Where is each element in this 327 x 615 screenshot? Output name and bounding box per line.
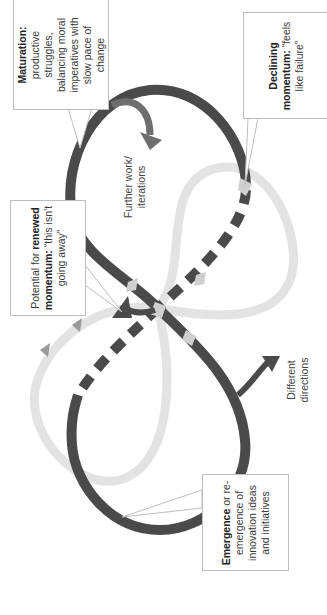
callout-maturation: Maturation: productive struggles, balanc…	[13, 0, 109, 110]
maturation-line: change	[94, 17, 107, 92]
different-line-1: Different	[285, 358, 298, 403]
declining-title-2: momentum:	[279, 50, 291, 110]
emergence-title: Emergence	[220, 508, 232, 565]
potential-bold-2: momentum:	[42, 250, 54, 310]
declining-title: Declining	[266, 42, 278, 89]
potential-quote: “this isn’t	[42, 206, 54, 247]
different-line-2: directions	[298, 358, 311, 403]
further-work-line-2: iterations	[135, 156, 148, 218]
emergence-line: and initiatives	[259, 480, 272, 565]
maturation-line: imperatives with	[68, 17, 81, 92]
further-work-line-1: Further work/	[122, 156, 135, 218]
callout-emergence: Emergence or re- emergence of innovation…	[202, 474, 289, 571]
potential-bold: renewed	[29, 207, 41, 250]
maturation-title: Maturation:	[16, 26, 28, 83]
declining-quote: “feels	[279, 21, 291, 47]
emergence-line: emergence of	[233, 480, 246, 565]
callout-potential: Potential for renewed momentum: “this is…	[10, 200, 86, 316]
maturation-line: productive	[29, 17, 42, 92]
declining-quote-end: like failure”	[292, 21, 305, 110]
emergence-rest: or re-	[220, 480, 232, 505]
callout-declining: Declining momentum: “feels like failure”	[243, 12, 327, 119]
potential-quote-end: going away”	[55, 206, 68, 310]
label-different-directions: Different directions	[278, 355, 318, 405]
maturation-line: balancing moral	[55, 17, 68, 92]
potential-prefix: Potential for	[29, 253, 41, 309]
different-directions-arrow-icon	[238, 362, 268, 395]
maturation-line: slow pace of	[81, 17, 94, 92]
emergence-line: innovation ideas	[246, 480, 259, 565]
maturation-line: struggles,	[42, 17, 55, 92]
label-further-work: Further work/ iterations	[108, 160, 162, 214]
